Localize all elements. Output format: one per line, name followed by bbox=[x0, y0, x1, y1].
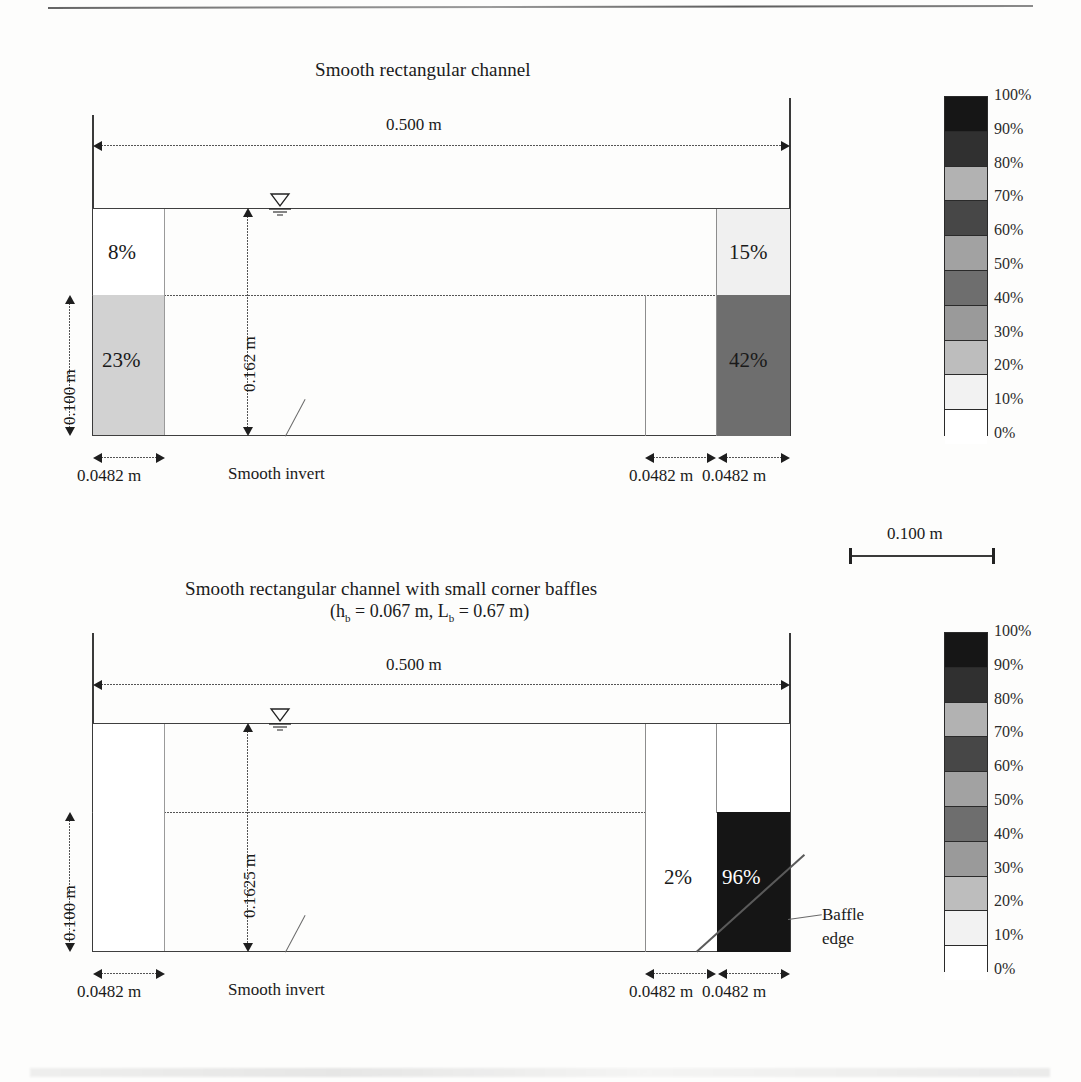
dimension-bottom-width bbox=[93, 679, 790, 691]
colorbar-band-40-50% bbox=[945, 807, 987, 842]
colorbar-band-30-40% bbox=[945, 842, 987, 877]
arrowhead-down bbox=[243, 943, 253, 952]
colorbar-tick-label: 20% bbox=[994, 892, 1023, 910]
colorbar-tick-label: 10% bbox=[994, 926, 1023, 944]
note-baffle-edge-line2: edge bbox=[822, 929, 854, 949]
scan-ghost-text bbox=[60, 1056, 63, 1072]
colorbar-band-70-80% bbox=[945, 703, 987, 738]
arrowhead-left bbox=[645, 969, 654, 979]
dimension-bottom-cellwidth-right-inner-label: 0.0482 m bbox=[629, 982, 693, 1002]
colorbar-bottom: 100%90%80%70%60%50%40%30%20%10%0% bbox=[944, 632, 988, 972]
arrowhead-up bbox=[243, 723, 253, 732]
colorbar-tick-label: 60% bbox=[994, 757, 1023, 775]
arrowhead-right bbox=[781, 680, 790, 690]
arrowhead-left bbox=[93, 969, 102, 979]
dimension-bottom-depth-center-label: 0.1625 m bbox=[240, 854, 260, 918]
colorbar-band-10-20% bbox=[945, 911, 987, 946]
dimension-bottom-cellwidth-left-label: 0.0482 m bbox=[77, 982, 141, 1002]
subtitle-hb-value: = 0.067 m, bbox=[351, 601, 438, 621]
colorbar-band-50-60% bbox=[945, 772, 987, 807]
figure-canvas: Smooth rectangular channel 0.500 m 8% 23… bbox=[0, 0, 1081, 1082]
arrowhead-left bbox=[718, 969, 727, 979]
cell-bottom-left-lower bbox=[93, 812, 165, 951]
dimension-bottom-cellwidth-left bbox=[93, 968, 165, 980]
cell-bottom-right-outer-lower-label: 96% bbox=[722, 865, 761, 890]
arrowhead-down bbox=[65, 943, 75, 952]
cell-bottom-right-inner-lower-label: 2% bbox=[664, 865, 692, 890]
colorbar-band-60-70% bbox=[945, 737, 987, 772]
panel-bottom-subtitle: (hb = 0.067 m, Lb = 0.67 m) bbox=[330, 601, 529, 624]
colorbar-band-0-10% bbox=[945, 946, 987, 980]
colorbar-tick-label: 80% bbox=[994, 690, 1023, 708]
colorbar-band-80-90% bbox=[945, 668, 987, 703]
cell-divider-bottom-outer-right bbox=[716, 724, 717, 813]
dimension-bottom-depth-left-label: 0.100 m bbox=[60, 885, 80, 941]
colorbar-tick-label: 70% bbox=[994, 723, 1023, 741]
colorbar-bottom-labels: 100%90%80%70%60%50%40%30%20%10%0% bbox=[994, 622, 1064, 980]
subtitle-hb-symbol: h bbox=[336, 601, 345, 621]
colorbar-tick-label: 50% bbox=[994, 791, 1023, 809]
note-smooth-invert-bottom: Smooth invert bbox=[228, 980, 325, 1000]
colorbar-tick-label: 100% bbox=[994, 622, 1031, 640]
cell-divider-bottom-inner-right bbox=[645, 812, 646, 952]
arrowhead-up bbox=[65, 812, 75, 821]
leader-line-baffle-edge bbox=[788, 914, 822, 920]
arrowhead-left bbox=[93, 680, 102, 690]
colorbar-band-90-100% bbox=[945, 633, 987, 668]
colorbar-band-20-30% bbox=[945, 877, 987, 912]
arrowhead-right bbox=[707, 969, 716, 979]
dimension-bottom-cellwidth-right-outer-label: 0.0482 m bbox=[702, 982, 766, 1002]
colorbar-tick-label: 30% bbox=[994, 859, 1023, 877]
panel-bottom: Smooth rectangular channel with small co… bbox=[0, 0, 1081, 1082]
free-surface-symbol-bottom bbox=[267, 707, 293, 731]
colorbar-bottom-bands bbox=[944, 632, 988, 972]
panel-bottom-title: Smooth rectangular channel with small co… bbox=[185, 578, 597, 600]
dimension-bottom-cellwidth-right-outer bbox=[718, 968, 790, 980]
dimension-bottom-width-label: 0.500 m bbox=[386, 655, 442, 675]
colorbar-tick-label: 90% bbox=[994, 656, 1023, 674]
cell-bottom-right-inner-upper bbox=[645, 724, 716, 812]
subtitle-lb-value: = 0.67 m) bbox=[454, 601, 529, 621]
channel-invert-line-bottom bbox=[92, 951, 791, 952]
leader-line-smooth-invert-bottom bbox=[285, 915, 306, 953]
arrowhead-right bbox=[781, 969, 790, 979]
colorbar-tick-label: 40% bbox=[994, 825, 1023, 843]
colorbar-tick-label: 0% bbox=[994, 960, 1015, 978]
note-baffle-edge-line1: Baffle bbox=[822, 905, 864, 925]
dimension-bottom-cellwidth-right-inner bbox=[645, 968, 716, 980]
arrowhead-right bbox=[156, 969, 165, 979]
cell-bottom-left-upper bbox=[93, 724, 165, 812]
cell-bottom-right-outer-upper bbox=[717, 724, 790, 812]
subtitle-lb-symbol: L bbox=[438, 601, 449, 621]
cell-divider-bottom-inner-upper bbox=[645, 724, 646, 813]
